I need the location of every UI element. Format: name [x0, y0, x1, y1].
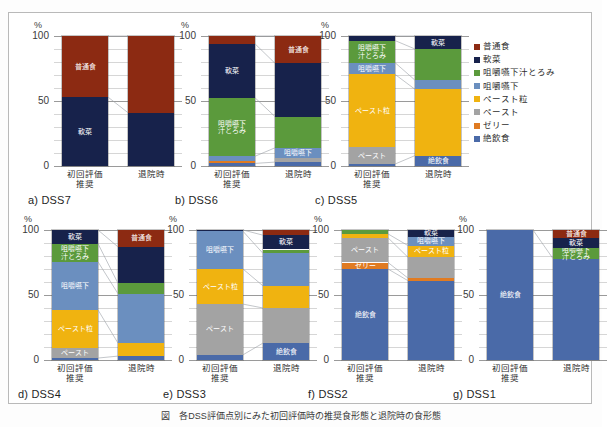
flow-connectors	[165, 14, 310, 210]
flow-connectors	[305, 14, 450, 210]
panel-title-d: d) DSS4	[18, 388, 61, 400]
legend-item-咀嚼嚥下: 咀嚼嚥下	[474, 80, 594, 93]
panel-title-b: b) DSS6	[175, 194, 218, 206]
panel-title-c: c) DSS5	[315, 194, 357, 206]
panel-title-e: e) DSS3	[163, 388, 206, 400]
legend-item-絶飲食: 絶飲食	[474, 132, 594, 145]
legend-swatch-icon	[474, 83, 480, 89]
legend-swatch-icon	[474, 123, 480, 129]
flow-connectors	[298, 208, 443, 404]
panel-d: %050100ペーストペースト粒咀嚼嚥下咀嚼嚥下汁とろみ軟菜初回評価推奨普通食退…	[8, 208, 153, 404]
legend-swatch-icon	[474, 70, 480, 76]
panel-g: %050100絶飲食初回評価推奨咀嚼嚥下汁とろみ軟菜普通食退院時g) DSS1	[443, 208, 588, 404]
flow-connectors	[8, 208, 153, 404]
legend-swatch-icon	[474, 44, 480, 50]
legend-label: 軟菜	[483, 53, 501, 66]
panel-c: %050100ペーストペースト粒咀嚼嚥下咀嚼嚥下汁とろみ初回評価推奨絶飲食軟菜退…	[305, 14, 450, 210]
legend-item-咀嚼嚥下汁とろみ: 咀嚼嚥下汁とろみ	[474, 66, 594, 79]
legend-swatch-icon	[474, 57, 480, 63]
panel-title-g: g) DSS1	[453, 388, 496, 400]
legend-item-普通食: 普通食	[474, 40, 594, 53]
legend-swatch-icon	[474, 136, 480, 142]
chart-legend: 普通食軟菜咀嚼嚥下汁とろみ咀嚼嚥下ペースト粒ペーストゼリー絶飲食	[474, 40, 594, 146]
legend-label: 普通食	[483, 40, 510, 53]
panel-title-f: f) DSS2	[308, 388, 348, 400]
legend-item-ゼリー: ゼリー	[474, 119, 594, 132]
legend-item-ペースト粒: ペースト粒	[474, 93, 594, 106]
legend-item-ペースト: ペースト	[474, 106, 594, 119]
flow-connectors	[18, 14, 163, 210]
flow-connectors	[153, 208, 298, 404]
panel-f: %050100絶飲食ゼリーペースト初回評価推奨ペースト粒咀嚼嚥下軟菜退院時f) …	[298, 208, 443, 404]
legend-item-軟菜: 軟菜	[474, 53, 594, 66]
legend-label: 咀嚼嚥下汁とろみ	[483, 66, 555, 79]
panel-e: %050100ペーストペースト粒咀嚼嚥下初回評価推奨絶飲食軟菜退院時e) DSS…	[153, 208, 298, 404]
panel-b: %050100咀嚼嚥下汁とろみ軟菜初回評価推奨咀嚼嚥下普通食退院時b) DSS6	[165, 14, 310, 210]
legend-label: ペースト粒	[483, 93, 528, 106]
flow-connectors	[443, 208, 588, 404]
panel-a: %050100軟菜普通食初回評価推奨退院時a) DSS7	[18, 14, 163, 210]
legend-label: ペースト	[483, 106, 519, 119]
legend-label: ゼリー	[483, 119, 510, 132]
legend-swatch-icon	[474, 109, 480, 115]
legend-swatch-icon	[474, 96, 480, 102]
legend-label: 絶飲食	[483, 132, 510, 145]
panel-title-a: a) DSS7	[28, 194, 71, 206]
figure-caption: 図 各DSS評価点別にみた初回評価時の推奨食形態と退院時の食形態	[0, 409, 602, 422]
legend-label: 咀嚼嚥下	[483, 80, 519, 93]
